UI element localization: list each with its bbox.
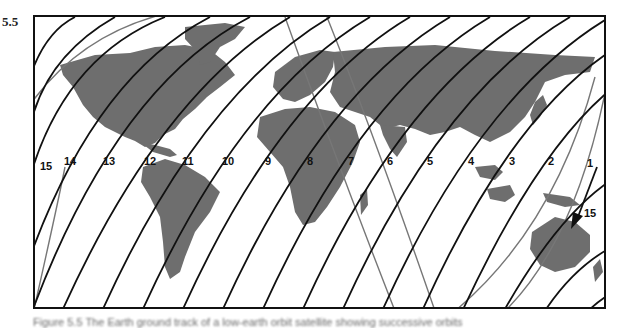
india (380, 125, 407, 157)
australia (530, 217, 590, 272)
track-label-10: 10 (222, 155, 234, 167)
track-label-12: 12 (144, 155, 156, 167)
land-masses (60, 23, 603, 282)
track-label-7: 7 (348, 155, 354, 167)
europe (273, 50, 335, 102)
track-label-9: 9 (265, 155, 271, 167)
new-zealand (593, 259, 603, 282)
track-label-6: 6 (387, 155, 393, 167)
borneo (487, 185, 515, 202)
track-label-13: 13 (103, 155, 115, 167)
track-label-11: 11 (182, 155, 194, 167)
track-label-2: 2 (548, 155, 554, 167)
track-label-1: 1 (587, 157, 593, 169)
south-america (141, 159, 220, 279)
indonesia (475, 165, 503, 180)
track-label-14: 14 (64, 155, 76, 167)
track-label-3: 3 (509, 155, 515, 167)
figure-number: 5.5 (2, 14, 18, 30)
track-label-5: 5 (427, 155, 433, 167)
track-label-8: 8 (307, 155, 313, 167)
arrow-track-label: 15 (584, 207, 596, 219)
map-graphic (35, 17, 606, 309)
track-label-4: 4 (468, 155, 474, 167)
world-map-ground-track: 15 14 13 12 11 10 9 8 7 6 5 4 3 2 1 15 (33, 15, 606, 309)
track-label-15: 15 (40, 160, 52, 172)
figure-caption: Figure 5.5 The Earth ground track of a l… (33, 316, 463, 328)
